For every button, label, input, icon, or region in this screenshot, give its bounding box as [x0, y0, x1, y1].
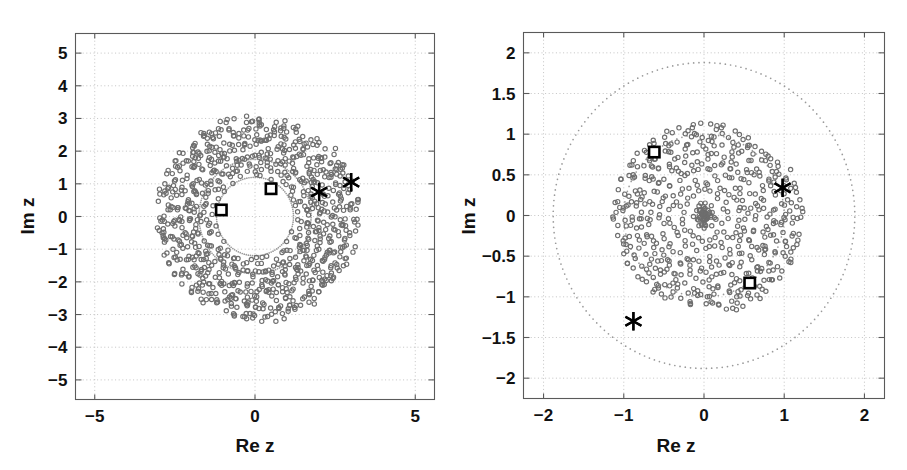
two-panel-complex-plane-figure: Im z Re z −505543210−1−2−3−4−5 Im z Re z: [0, 0, 907, 470]
data-point: [312, 296, 316, 300]
y-tick-label: −3: [48, 306, 67, 325]
data-point: [321, 270, 325, 274]
data-point: [245, 169, 249, 173]
reference-circle-dot: [232, 248, 234, 250]
data-point: [653, 251, 657, 255]
reference-circle-dot: [293, 217, 295, 219]
data-point: [175, 250, 179, 254]
data-point: [280, 311, 284, 315]
reference-circle-dot: [293, 215, 295, 217]
data-point: [629, 223, 633, 227]
reference-circle-dot: [853, 195, 855, 197]
data-point: [298, 233, 302, 237]
left-scatter-panel: Im z Re z −505543210−1−2−3−4−5: [0, 0, 454, 470]
reference-circle-dot: [721, 366, 723, 368]
data-point: [788, 167, 792, 171]
data-point: [695, 183, 699, 187]
data-point: [230, 166, 234, 170]
data-point: [747, 181, 751, 185]
data-point: [798, 198, 802, 202]
reference-circle-dot: [624, 201, 626, 203]
reference-circle-dot: [775, 80, 777, 82]
data-point: [317, 275, 321, 279]
data-point: [721, 207, 725, 211]
reference-circle-dot: [229, 245, 231, 247]
reference-circle-dot: [657, 69, 659, 71]
data-point: [298, 303, 302, 307]
data-point: [663, 296, 667, 300]
right-x-axis-label: Re z: [656, 435, 695, 456]
y-tick-label: −1.5: [482, 329, 516, 348]
data-point: [755, 167, 759, 171]
data-point: [332, 152, 336, 156]
reference-circle-dot: [582, 306, 584, 308]
data-point: [331, 222, 335, 226]
data-point: [254, 127, 258, 131]
reference-circle-dot: [682, 63, 684, 65]
data-point: [671, 194, 675, 198]
data-point: [636, 275, 640, 279]
data-point: [241, 268, 245, 272]
reference-circle-dot: [810, 322, 812, 324]
reference-circle-dot: [706, 368, 708, 370]
data-point: [659, 292, 663, 296]
right-data-points: [552, 62, 855, 370]
reference-circle-dot: [587, 117, 589, 119]
reference-circle-dot: [765, 75, 767, 77]
data-point: [312, 253, 316, 257]
data-point: [276, 262, 280, 266]
reference-circle-dot: [250, 177, 252, 179]
reference-circle-dot: [568, 283, 570, 285]
data-point: [291, 299, 295, 303]
data-point: [739, 177, 743, 181]
data-point: [226, 248, 230, 252]
reference-circle-dot: [628, 82, 630, 84]
data-point: [244, 120, 248, 124]
data-point: [660, 248, 664, 252]
data-point: [690, 242, 694, 246]
data-point: [710, 275, 714, 279]
data-point: [713, 163, 717, 167]
data-point: [226, 272, 230, 276]
x-tick-label: −2: [534, 406, 553, 425]
data-point: [217, 271, 221, 275]
data-point: [708, 238, 712, 242]
reference-circle-dot: [211, 252, 213, 254]
data-point: [185, 245, 189, 249]
data-point: [672, 225, 676, 229]
reference-circle-dot: [291, 226, 293, 228]
reference-circle-dot: [210, 251, 212, 253]
reference-circle-dot: [221, 235, 223, 237]
data-point: [648, 199, 652, 203]
reference-circle-dot: [552, 210, 554, 212]
data-point: [784, 244, 788, 248]
reference-circle-dot: [216, 216, 218, 218]
reference-circle-dot: [681, 136, 683, 138]
data-point: [732, 145, 736, 149]
data-point: [680, 187, 684, 191]
data-point: [290, 161, 294, 165]
data-point: [712, 292, 716, 296]
reference-circle-dot: [287, 236, 289, 238]
reference-circle-dot: [747, 361, 749, 363]
data-point: [338, 255, 342, 259]
data-point: [737, 218, 741, 222]
reference-circle-dot: [600, 326, 602, 328]
data-point: [746, 211, 750, 215]
reference-circle-dot: [840, 279, 842, 281]
reference-circle-dot: [848, 259, 850, 261]
y-tick-label: 0.5: [492, 166, 516, 185]
data-point: [662, 221, 666, 225]
data-point: [714, 151, 718, 155]
reference-circle-dot: [821, 310, 823, 312]
reference-circle-dot: [581, 125, 583, 127]
data-point: [688, 263, 692, 267]
reference-circle-dot: [218, 229, 220, 231]
data-point: [701, 144, 705, 148]
data-point: [217, 134, 221, 138]
reference-circle-dot: [292, 221, 294, 223]
data-point: [735, 224, 739, 228]
reference-circle-dot: [851, 184, 853, 186]
data-point: [180, 282, 184, 286]
reference-circle-dot: [805, 102, 807, 104]
